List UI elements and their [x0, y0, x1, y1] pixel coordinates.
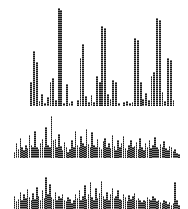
middle-panel-plot-area: [0, 106, 188, 158]
bar: [85, 96, 87, 106]
bar: [41, 94, 43, 106]
bar: [112, 80, 114, 106]
bar: [96, 76, 98, 106]
bar: [115, 82, 117, 106]
bottom-panel: [0, 158, 188, 209]
bar: [99, 82, 101, 106]
figure-container: [0, 0, 188, 209]
bar: [80, 58, 82, 106]
bar: [50, 82, 52, 106]
bar: [36, 62, 38, 106]
bar: [170, 60, 172, 106]
bar: [30, 82, 32, 106]
bar: [162, 92, 164, 106]
bar: [142, 99, 144, 106]
bar: [145, 93, 147, 106]
top-panel: [0, 0, 188, 106]
bar: [156, 18, 158, 106]
top-panel-plot-area: [0, 0, 188, 106]
bar: [47, 97, 49, 106]
bar: [104, 28, 106, 106]
bar: [82, 44, 84, 106]
bar: [153, 72, 155, 106]
bar: [107, 94, 109, 106]
bar: [159, 20, 161, 106]
bar: [101, 26, 103, 106]
bar: [140, 82, 142, 106]
bar: [33, 51, 35, 106]
bottom-panel-plot-area: [0, 158, 188, 209]
bar: [60, 10, 62, 106]
bar: [151, 76, 153, 106]
bar: [137, 40, 139, 106]
bar: [66, 84, 68, 106]
bar: [167, 58, 169, 106]
bar: [178, 205, 179, 209]
middle-panel: [0, 106, 188, 158]
bar: [134, 38, 136, 106]
bar: [52, 78, 54, 106]
bar: [91, 95, 93, 106]
bar: [110, 99, 112, 106]
bar: [58, 8, 60, 106]
